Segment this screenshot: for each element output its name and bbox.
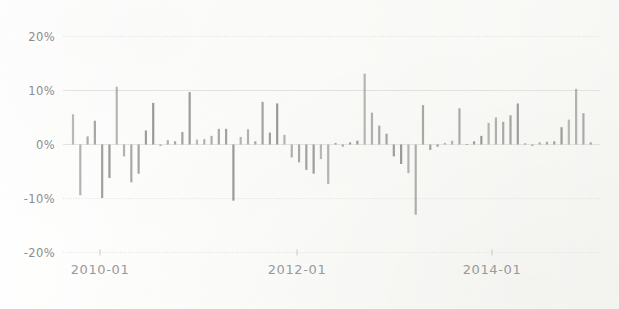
bar (123, 145, 125, 157)
bar (327, 145, 329, 184)
bar (429, 145, 431, 150)
bar (444, 143, 446, 145)
bar (415, 145, 417, 215)
bar (393, 145, 395, 157)
bar (283, 135, 285, 145)
bar (225, 129, 227, 145)
bar (108, 145, 110, 178)
bar (305, 145, 307, 170)
y-tick-label: 20% (28, 30, 55, 44)
bar (232, 145, 234, 201)
bar (385, 134, 387, 145)
bar (466, 144, 468, 145)
bar (436, 145, 438, 147)
bar (371, 113, 373, 145)
x-axis-labels-group: 2010-012012-012014-01 (71, 250, 522, 277)
bar (320, 145, 322, 160)
bar (458, 108, 460, 144)
bar (568, 120, 570, 145)
bar (196, 140, 198, 145)
bar (167, 140, 169, 144)
bar (473, 141, 475, 144)
bar (553, 141, 555, 144)
bar (261, 102, 263, 145)
bar (174, 141, 176, 144)
y-tick-label: 10% (28, 84, 55, 98)
bar (422, 105, 424, 144)
bar (145, 130, 147, 144)
bar (334, 143, 336, 145)
bar (210, 136, 212, 145)
bar (480, 136, 482, 145)
bar (189, 92, 191, 144)
bar (451, 141, 453, 145)
bar (138, 145, 140, 174)
bar (276, 103, 278, 144)
bar (502, 122, 504, 145)
bar (94, 121, 96, 145)
y-axis-labels-group: 20%10%0%-10%-20% (24, 30, 55, 260)
y-tick-label: -20% (24, 246, 55, 260)
bar (203, 139, 205, 144)
bar (582, 113, 584, 144)
bar (247, 129, 249, 144)
bar (488, 123, 490, 145)
bar (298, 145, 300, 163)
bar (539, 142, 541, 144)
bar (400, 145, 402, 164)
bar (218, 129, 220, 145)
x-tick-label: 2010-01 (71, 262, 130, 277)
bar (575, 89, 577, 145)
bar (364, 74, 366, 145)
bar (531, 145, 533, 147)
gridlines-group (63, 37, 600, 253)
y-tick-label: -10% (24, 192, 55, 206)
bar (517, 103, 519, 144)
bar (509, 115, 511, 144)
chart-svg: 20%10%0%-10%-20% 2010-012012-012014-01 (0, 0, 619, 309)
bar (240, 137, 242, 145)
bar (378, 126, 380, 145)
bar (86, 136, 88, 144)
bar (269, 133, 271, 145)
bar-chart: 20%10%0%-10%-20% 2010-012012-012014-01 (0, 0, 619, 309)
bar (495, 118, 497, 145)
bar (159, 145, 161, 147)
x-tick-label: 2014-01 (463, 262, 522, 277)
bar (79, 145, 81, 196)
x-tick-label: 2012-01 (268, 262, 327, 277)
bar (407, 145, 409, 174)
bar (546, 142, 548, 145)
bar (560, 127, 562, 144)
bar (313, 145, 315, 174)
bar (181, 132, 183, 144)
bar (356, 141, 358, 145)
bar (130, 145, 132, 183)
bar (254, 141, 256, 144)
bar (349, 142, 351, 144)
bar (524, 143, 526, 144)
bar (101, 145, 103, 198)
bar (590, 142, 592, 144)
bar (291, 145, 293, 158)
bar (116, 87, 118, 145)
bar (72, 114, 74, 144)
bar (342, 145, 344, 147)
y-tick-label: 0% (36, 138, 55, 152)
bar (152, 103, 154, 145)
